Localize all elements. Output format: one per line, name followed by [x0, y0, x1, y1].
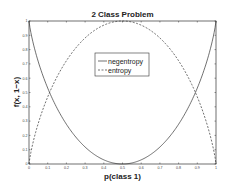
y-axis-label: f(x, 1−x) [12, 76, 21, 107]
x-axis-label: p(class 1) [104, 172, 141, 181]
x-tick-label: 1 [215, 166, 217, 170]
x-tick-label: 0.2 [64, 166, 69, 170]
y-tick-label: 0.1 [23, 148, 28, 152]
y-tick-label: 0.6 [23, 77, 28, 81]
y-tick-label: 0.3 [23, 119, 28, 123]
plot-frame [29, 21, 216, 164]
plot-area [29, 21, 216, 164]
x-tick-label: 0.1 [45, 166, 50, 170]
legend: negentropy entropy [95, 53, 149, 76]
x-tick-label: 0.4 [101, 166, 106, 170]
y-tick-label: 0.2 [23, 134, 28, 138]
legend-label-entropy: entropy [108, 67, 132, 75]
y-tick-label: 0.9 [23, 34, 28, 38]
y-tick-label: 0 [26, 162, 28, 166]
x-tick-label: 0.3 [83, 166, 88, 170]
chart-title: 2 Class Problem [91, 10, 153, 19]
x-tick-label: 0.9 [195, 166, 200, 170]
legend-label-negentropy: negentropy [108, 58, 144, 66]
x-tick-label: 0 [28, 166, 30, 170]
y-tick-label: 0.4 [23, 105, 28, 109]
y-tick-label: 0.8 [23, 48, 28, 52]
x-tick-label: 0.8 [176, 166, 181, 170]
x-tick-label: 0.6 [139, 166, 144, 170]
x-tick-label: 0.5 [120, 166, 125, 170]
chart: 2 Class Problem 00.10.20.30.40.50.60.70.… [0, 0, 229, 187]
y-tick-label: 0.7 [23, 62, 28, 66]
y-tick-label: 1 [26, 19, 28, 23]
y-tick-label: 0.5 [23, 91, 28, 95]
x-tick-label: 0.7 [157, 166, 162, 170]
